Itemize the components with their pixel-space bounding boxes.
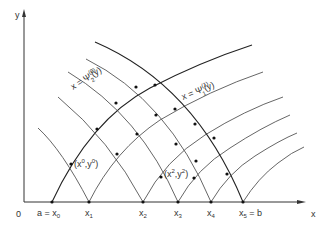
node <box>134 85 137 88</box>
y-axis-arrow-icon <box>22 9 26 17</box>
node <box>95 127 98 130</box>
node <box>115 152 118 155</box>
psi1-curve-from-x5 <box>243 147 304 202</box>
base-label-x0: a = x0 <box>37 208 61 219</box>
point-label-x0-y0: (x0,y0) <box>74 158 98 169</box>
characteristics-diagram: y x 0 <box>0 0 331 231</box>
node <box>193 122 196 125</box>
node <box>114 101 117 104</box>
psi1-curve-from-x1 <box>89 72 263 202</box>
node <box>173 107 176 110</box>
psi2-curve-to-x1 <box>58 97 143 202</box>
grid-nodes <box>50 83 244 203</box>
node <box>212 136 215 139</box>
node <box>174 142 177 145</box>
psi1-curve-from-x2 <box>143 97 283 202</box>
node-x0 <box>50 200 53 203</box>
node-x3 <box>176 200 179 203</box>
node-x5 <box>241 200 244 203</box>
base-label-x1: x1 <box>85 208 94 219</box>
y-axis-label: y <box>15 10 20 20</box>
base-label-x5: x5 = b <box>239 208 262 219</box>
node <box>135 132 138 135</box>
node-x2 <box>141 200 144 203</box>
base-point-labels: a = x0 x1 x2 x3 x4 x5 = b <box>37 208 262 219</box>
node <box>154 113 157 116</box>
svg-text:x = Ψ(1)1(y): x = Ψ(1)1(y) <box>180 79 217 105</box>
psi1-curve-from-x3 <box>178 115 290 202</box>
psi1-curve-from-x4 <box>211 133 297 202</box>
node-x4 <box>209 200 212 203</box>
node <box>192 176 195 179</box>
node-x0-y0 <box>69 162 72 165</box>
svg-text:x = Ψ(0)2(y): x = Ψ(0)2(y) <box>68 64 105 94</box>
psi2-curve-family <box>38 42 243 202</box>
origin-label: 0 <box>16 209 21 219</box>
point-label-x2-y2: (x2,y2) <box>164 168 188 179</box>
psi2-curve-label: x = Ψ(0)2(y) <box>68 64 105 94</box>
base-label-x4: x4 <box>207 208 216 219</box>
axes: y x 0 <box>15 9 316 219</box>
psi1-curve-label: x = Ψ(1)1(y) <box>180 79 217 105</box>
base-label-x2: x2 <box>139 208 148 219</box>
node <box>194 159 197 162</box>
x-axis-arrow-icon <box>297 200 306 204</box>
node-x2-y2 <box>159 175 162 178</box>
psi2-curve-to-x2 <box>68 72 178 202</box>
node <box>225 172 228 175</box>
node-x1 <box>87 200 90 203</box>
node <box>153 83 156 86</box>
base-label-x3: x3 <box>174 208 183 219</box>
psi1-curve-from-x0 <box>52 45 252 202</box>
x-axis-label: x <box>311 209 316 219</box>
